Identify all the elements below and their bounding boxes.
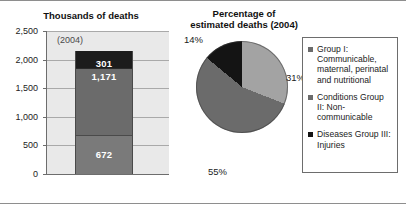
y-axis-tick-mark (43, 117, 47, 118)
bar-segment-value-label: 1,171 (92, 71, 117, 82)
legend-item[interactable]: Group I: Communicable, maternal, perinat… (308, 44, 392, 85)
bar-segment[interactable]: 1,171 (76, 69, 132, 136)
legend-item-label: Group I: Communicable, maternal, perinat… (317, 44, 392, 85)
stacked-bar[interactable]: 3011,171672 (75, 51, 133, 174)
bar-chart-year-annotation: (2004) (57, 35, 83, 45)
y-axis-tick-label: 1,500 (15, 83, 38, 93)
legend-swatch-icon (308, 47, 313, 52)
bar-segment[interactable]: 301 (76, 51, 132, 68)
legend-swatch-icon (308, 95, 313, 100)
y-axis-tick-label: 1,000 (15, 112, 38, 122)
y-axis-tick-mark (43, 174, 47, 175)
pie-chart-panel: Percentage of estimated deaths (2004) 31… (178, 1, 310, 204)
bar-segment-value-label: 301 (96, 58, 112, 69)
pie-chart-title-line2: estimated deaths (2004) (176, 19, 312, 30)
y-axis-tick-label: 2,000 (15, 55, 38, 65)
legend-box: Group I: Communicable, maternal, perinat… (302, 37, 398, 173)
y-axis-tick-label: 2,500 (15, 26, 38, 36)
figure-container: Thousands of deaths 2,5002,0001,5001,000… (0, 0, 406, 204)
pie-label-14-percent: 14% (184, 34, 203, 45)
y-axis-tick-label: 500 (23, 140, 38, 150)
bar-chart-y-axis-labels: 2,5002,0001,5001,0005000 (0, 1, 44, 204)
legend-item[interactable]: Conditions Group II: Non-communicable (308, 92, 392, 123)
legend-item[interactable]: Diseases Group III: Injuries (308, 129, 392, 149)
y-axis-tick-mark (43, 145, 47, 146)
bar-segment[interactable]: 672 (76, 136, 132, 174)
pie-chart-title: Percentage of estimated deaths (2004) (176, 8, 312, 30)
pie-chart-title-line1: Percentage of (176, 8, 312, 19)
legend-item-label: Diseases Group III: Injuries (317, 129, 392, 149)
y-axis-tick-label: 0 (33, 169, 38, 179)
legend-item-label: Conditions Group II: Non-communicable (317, 92, 392, 123)
bar-chart-plot-area: (2004) 3011,171672 (46, 31, 169, 175)
bar-chart-panel: Thousands of deaths 2,5002,0001,5001,000… (0, 1, 180, 204)
pie-label-55-percent: 55% (208, 166, 227, 177)
y-axis-tick-mark (43, 31, 47, 32)
y-axis-tick-mark (43, 60, 47, 61)
gridline (47, 31, 169, 32)
bar-segment-value-label: 672 (96, 149, 112, 160)
legend-swatch-icon (308, 132, 313, 137)
pie-slices[interactable]: 31%55%14% (196, 41, 288, 133)
y-axis-tick-mark (43, 88, 47, 89)
pie-chart-graphic: 31%55%14% (196, 41, 288, 133)
